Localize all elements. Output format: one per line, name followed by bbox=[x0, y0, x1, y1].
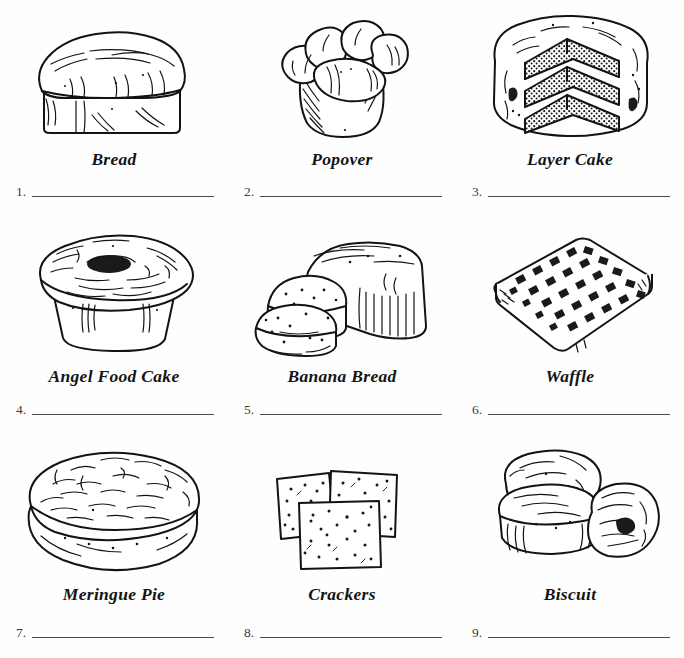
worksheet-item-waffle: Waffle 6. bbox=[456, 217, 684, 435]
angel-food-cake-icon bbox=[0, 217, 228, 362]
item-label: Meringue Pie bbox=[63, 584, 165, 605]
item-number: 2. bbox=[244, 185, 254, 200]
worksheet-item-layer-cake: Layer Cake 3. bbox=[456, 0, 684, 217]
worksheet-item-banana-bread: Banana Bread 5. bbox=[228, 217, 456, 435]
write-in-rule[interactable] bbox=[260, 196, 442, 197]
write-in-rule[interactable] bbox=[488, 414, 670, 415]
item-number: 1. bbox=[16, 185, 26, 200]
write-in-rule[interactable] bbox=[488, 637, 670, 638]
item-number: 4. bbox=[16, 403, 26, 418]
item-label: Biscuit bbox=[544, 584, 597, 605]
worksheet-item-meringue-pie: Meringue Pie 7. bbox=[0, 435, 228, 658]
worksheet-item-biscuit: Biscuit 9. bbox=[456, 435, 684, 658]
popover-icon bbox=[228, 0, 456, 145]
answer-line-1[interactable]: 1. bbox=[16, 185, 214, 200]
write-in-rule[interactable] bbox=[32, 637, 214, 638]
item-label: Banana Bread bbox=[287, 366, 396, 387]
item-label: Bread bbox=[91, 149, 136, 170]
answer-line-6[interactable]: 6. bbox=[472, 403, 670, 418]
answer-line-8[interactable]: 8. bbox=[244, 626, 442, 641]
answer-line-5[interactable]: 5. bbox=[244, 403, 442, 418]
worksheet-item-angel-food-cake: Angel Food Cake 4. bbox=[0, 217, 228, 435]
biscuit-icon bbox=[456, 435, 684, 580]
worksheet-item-bread: Bread 1. bbox=[0, 0, 228, 217]
item-number: 9. bbox=[472, 626, 482, 641]
layer-cake-icon bbox=[456, 0, 684, 145]
write-in-rule[interactable] bbox=[488, 196, 670, 197]
item-label: Angel Food Cake bbox=[49, 366, 180, 387]
picture-word-grid: Bread 1. bbox=[0, 0, 684, 658]
write-in-rule[interactable] bbox=[32, 414, 214, 415]
banana-bread-icon bbox=[228, 217, 456, 362]
item-number: 6. bbox=[472, 403, 482, 418]
item-number: 3. bbox=[472, 185, 482, 200]
answer-line-2[interactable]: 2. bbox=[244, 185, 442, 200]
worksheet-page: Bread 1. bbox=[0, 0, 684, 658]
item-number: 8. bbox=[244, 626, 254, 641]
bread-loaf-icon bbox=[0, 0, 228, 145]
write-in-rule[interactable] bbox=[260, 637, 442, 638]
item-label: Layer Cake bbox=[527, 149, 613, 170]
item-label: Waffle bbox=[546, 366, 595, 387]
answer-line-3[interactable]: 3. bbox=[472, 185, 670, 200]
waffle-icon bbox=[456, 217, 684, 362]
answer-line-4[interactable]: 4. bbox=[16, 403, 214, 418]
meringue-pie-icon bbox=[0, 435, 228, 580]
answer-line-9[interactable]: 9. bbox=[472, 626, 670, 641]
answer-line-7[interactable]: 7. bbox=[16, 626, 214, 641]
item-label: Popover bbox=[311, 149, 372, 170]
write-in-rule[interactable] bbox=[32, 196, 214, 197]
item-number: 7. bbox=[16, 626, 26, 641]
worksheet-item-popover: Popover 2. bbox=[228, 0, 456, 217]
write-in-rule[interactable] bbox=[260, 414, 442, 415]
worksheet-item-crackers: Crackers 8. bbox=[228, 435, 456, 658]
item-label: Crackers bbox=[308, 584, 376, 605]
item-number: 5. bbox=[244, 403, 254, 418]
crackers-icon bbox=[228, 435, 456, 580]
